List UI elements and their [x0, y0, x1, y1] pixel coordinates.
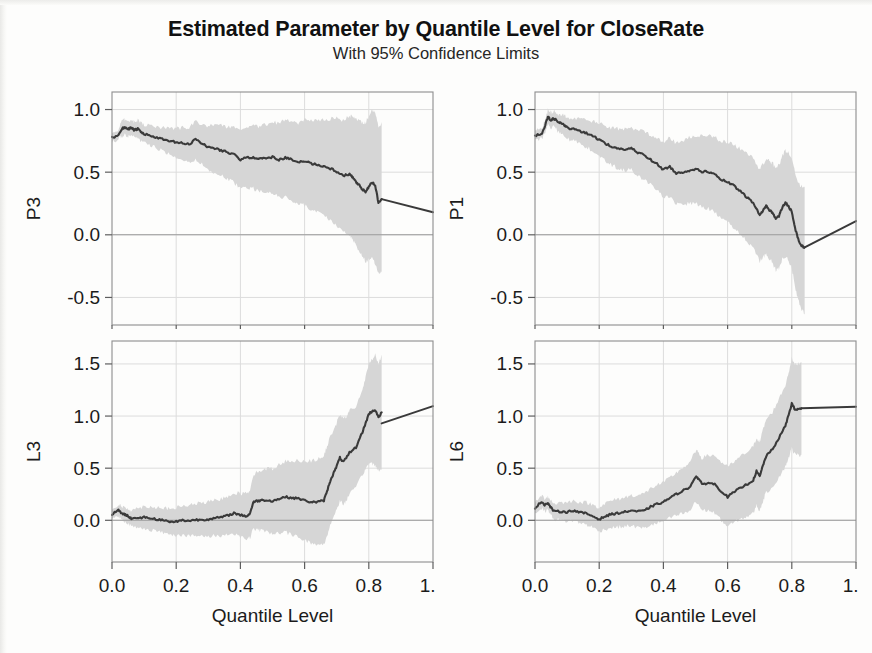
y-tick-label: 0.0: [74, 510, 100, 531]
y-tick-label: 1.5: [497, 353, 523, 374]
y-tick-label: -0.5: [490, 287, 523, 308]
plot-p3: -0.50.00.51.0P3: [14, 82, 435, 331]
x-tick-label: 0.4: [650, 575, 677, 596]
x-tick-label: 1.0: [420, 575, 435, 596]
y-tick-label: 1.5: [74, 353, 100, 374]
x-tick-label: 0.8: [356, 575, 382, 596]
y-tick-label: 0.5: [497, 162, 523, 183]
x-tick-label: 0.0: [522, 575, 548, 596]
panel-grid: -0.50.00.51.0P3 -0.50.00.51.0P1 0.00.51.…: [0, 82, 872, 653]
scan-edge-top: [0, 0, 872, 5]
x-axis-title: Quantile Level: [635, 605, 756, 626]
x-tick-label: 0.2: [586, 575, 612, 596]
y-tick-label: 1.0: [497, 99, 523, 120]
panel-p3: -0.50.00.51.0P3: [14, 82, 435, 331]
x-tick-label: 0.8: [779, 575, 805, 596]
y-tick-label: 0.5: [74, 458, 100, 479]
confidence-band: [112, 109, 382, 274]
extrapolation-line: [382, 406, 433, 423]
chart-page: Estimated Parameter by Quantile Level fo…: [0, 0, 872, 653]
confidence-band: [535, 108, 805, 314]
y-axis-title: P1: [446, 197, 467, 220]
y-axis-title: L6: [446, 441, 467, 462]
panel-p1: -0.50.00.51.0P1: [437, 82, 858, 331]
y-tick-label: 1.0: [497, 406, 523, 427]
y-tick-label: 1.0: [74, 406, 100, 427]
y-tick-label: 0.5: [497, 458, 523, 479]
y-tick-label: 0.0: [74, 224, 100, 245]
x-tick-label: 1.0: [843, 575, 858, 596]
panel-l3: 0.00.51.01.5L30.00.20.40.60.81.0Quantile…: [14, 331, 435, 653]
page-title: Estimated Parameter by Quantile Level fo…: [0, 18, 872, 41]
panel-l6: 0.00.51.01.5L60.00.20.40.60.81.0Quantile…: [437, 331, 858, 653]
title-block: Estimated Parameter by Quantile Level fo…: [0, 18, 872, 62]
x-tick-label: 0.2: [163, 575, 189, 596]
y-tick-label: 0.0: [497, 224, 523, 245]
plot-l6: 0.00.51.01.5L60.00.20.40.60.81.0Quantile…: [437, 331, 858, 653]
x-axis-title: Quantile Level: [212, 605, 333, 626]
x-tick-label: 0.6: [291, 575, 317, 596]
page-subtitle: With 95% Confidence Limits: [0, 45, 872, 62]
y-tick-label: -0.5: [67, 287, 100, 308]
y-axis-title: L3: [23, 441, 44, 462]
plot-l3: 0.00.51.01.5L30.00.20.40.60.81.0Quantile…: [14, 331, 435, 653]
extrapolation-line: [382, 199, 433, 212]
y-tick-label: 0.0: [497, 510, 523, 531]
y-tick-label: 0.5: [74, 162, 100, 183]
plot-frame: [535, 341, 856, 562]
x-tick-label: 0.0: [99, 575, 125, 596]
x-tick-label: 0.6: [714, 575, 740, 596]
plot-p1: -0.50.00.51.0P1: [437, 82, 858, 331]
extrapolation-line: [801, 407, 856, 409]
extrapolation-line: [805, 221, 856, 247]
confidence-band: [535, 357, 801, 533]
y-axis-title: P3: [23, 197, 44, 220]
gridlines: [535, 341, 856, 562]
y-tick-label: 1.0: [74, 99, 100, 120]
x-tick-label: 0.4: [227, 575, 254, 596]
